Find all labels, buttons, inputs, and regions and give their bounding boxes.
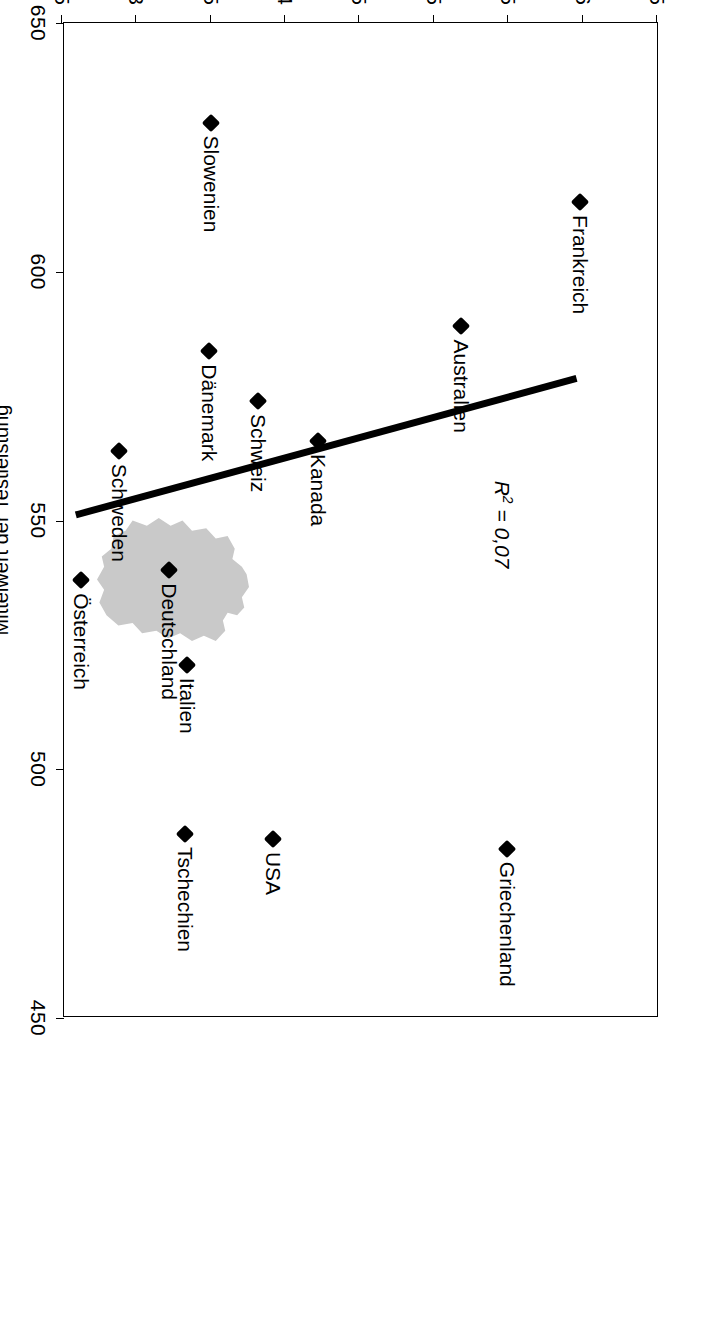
hours-axis-tick xyxy=(656,15,657,23)
data-point-marker xyxy=(498,840,516,858)
hours-axis-tick-label: 6,5 xyxy=(645,0,669,5)
data-point-label: Australien xyxy=(449,339,473,432)
data-point-label: USA xyxy=(261,852,285,895)
hours-axis-tick-label: 3 xyxy=(124,0,148,5)
value-axis-tick-label: 550 xyxy=(26,502,50,539)
hours-axis-tick xyxy=(135,15,136,23)
data-point-label: Griechenland xyxy=(495,862,519,987)
data-point-marker xyxy=(264,830,282,848)
data-point-label: Dänemark xyxy=(197,364,221,461)
hours-axis-tick-label: 5,5 xyxy=(496,0,520,5)
data-point-marker xyxy=(109,442,127,460)
value-axis-tick-label: 600 xyxy=(26,253,50,290)
hours-axis-tick xyxy=(582,15,583,23)
data-point-marker xyxy=(72,571,90,589)
value-axis-tick xyxy=(56,1018,64,1019)
plot-area: R2 = 0,07 650600550500450 Mittelwert der… xyxy=(63,22,658,1017)
value-axis-tick xyxy=(56,769,64,770)
value-axis-tick xyxy=(56,23,64,24)
hours-axis-tick xyxy=(61,15,62,23)
scatter-chart: R2 = 0,07 650600550500450 Mittelwert der… xyxy=(0,0,708,1344)
data-point-marker xyxy=(176,825,194,843)
hours-axis-tick-label: 4 xyxy=(273,0,297,5)
r-squared-annotation: R2 = 0,07 xyxy=(490,481,516,569)
data-point-label: Schweiz xyxy=(246,414,270,492)
data-point-label: Schweden xyxy=(107,464,131,562)
value-axis-title: Mittelwert der Testleistung xyxy=(0,404,13,635)
value-axis-tick xyxy=(56,272,64,273)
hours-axis-tick xyxy=(210,15,211,23)
data-point-label: Frankreich xyxy=(568,215,592,314)
trendline xyxy=(63,23,657,1016)
hours-axis-tick xyxy=(284,15,285,23)
value-axis-tick-label: 450 xyxy=(26,1000,50,1037)
value-axis-tick xyxy=(56,521,64,522)
data-point-label: Deutschland xyxy=(157,583,181,700)
data-point-label: Slowenien xyxy=(199,136,223,233)
data-point-marker xyxy=(570,193,588,211)
data-point-marker xyxy=(451,317,469,335)
data-point-label: Kanada xyxy=(306,454,330,526)
data-point-marker xyxy=(200,342,218,360)
hours-axis-tick-label: 4,5 xyxy=(348,0,372,5)
data-point-label: Österreich xyxy=(69,593,93,690)
data-point-label: Tschechien xyxy=(173,847,197,952)
value-axis-tick-label: 650 xyxy=(26,5,50,42)
hours-axis-tick-label: 2,5 xyxy=(50,0,74,5)
data-point-marker xyxy=(202,113,220,131)
hours-axis-tick-label: 3,5 xyxy=(199,0,223,5)
value-axis-tick-label: 500 xyxy=(26,751,50,788)
rotated-figure-wrapper: R2 = 0,07 650600550500450 Mittelwert der… xyxy=(0,0,708,1344)
hours-axis-tick xyxy=(507,15,508,23)
data-point-marker xyxy=(249,392,267,410)
data-point-marker xyxy=(160,561,178,579)
data-point-marker xyxy=(309,432,327,450)
hours-axis-tick xyxy=(359,15,360,23)
hours-axis-tick xyxy=(433,15,434,23)
hours-axis-tick-label: 6 xyxy=(571,0,595,5)
hours-axis-tick-label: 5 xyxy=(422,0,446,5)
